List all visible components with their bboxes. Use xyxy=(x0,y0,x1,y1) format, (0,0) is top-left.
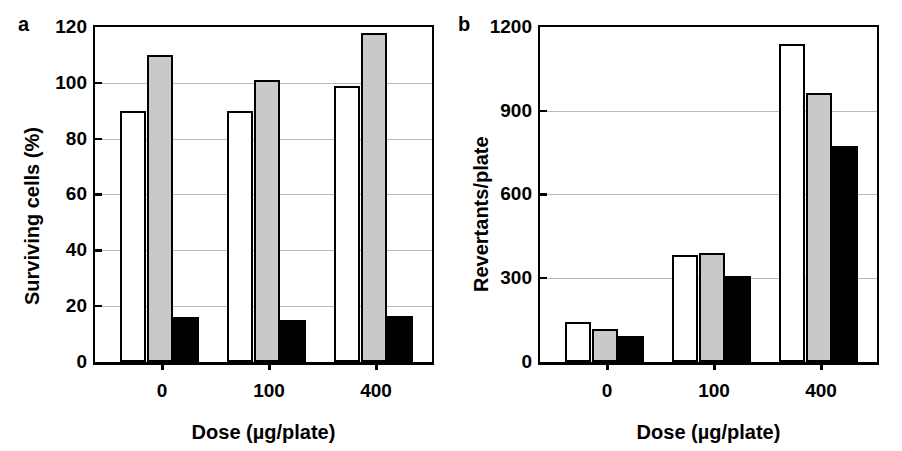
y-tick-label: 900 xyxy=(468,101,532,120)
y-tick-mark xyxy=(95,193,102,196)
x-tick-mark xyxy=(268,364,271,370)
y-tick-mark xyxy=(95,305,102,308)
y-tick-mark xyxy=(540,193,547,196)
x-tick-mark xyxy=(161,364,164,370)
bar-gray-dose-100 xyxy=(699,253,725,362)
x-tick-mark xyxy=(713,364,716,370)
panel-a: a Surviving cells (%) Dose (µg/plate) 02… xyxy=(0,0,451,451)
panel-a-plot-area xyxy=(95,27,432,362)
y-tick-label: 100 xyxy=(23,73,87,92)
y-tick-label: 300 xyxy=(468,268,532,287)
y-tick-label: 80 xyxy=(23,129,87,148)
bar-white-dose-0 xyxy=(565,322,591,362)
y-tick-label: 600 xyxy=(468,184,532,203)
y-tick-label: 0 xyxy=(23,352,87,371)
x-tick-label: 0 xyxy=(567,381,647,400)
panel-a-y-axis-title: Surviving cells (%) xyxy=(22,127,42,305)
panel-b-plot-area xyxy=(540,27,877,362)
bar-black-dose-0 xyxy=(618,336,644,362)
x-tick-label: 0 xyxy=(122,381,202,400)
bar-black-dose-0 xyxy=(173,317,199,362)
y-tick-mark xyxy=(95,138,102,141)
bar-black-dose-100 xyxy=(280,320,306,362)
y-tick-mark xyxy=(540,110,547,113)
bar-black-dose-400 xyxy=(832,146,858,362)
y-tick-mark xyxy=(95,82,102,85)
bar-white-dose-100 xyxy=(672,255,698,362)
x-tick-mark xyxy=(606,364,609,370)
bar-gray-dose-0 xyxy=(592,329,618,362)
bar-gray-dose-0 xyxy=(147,55,173,362)
y-tick-label: 60 xyxy=(23,184,87,203)
panel-a-plot-frame xyxy=(93,25,434,365)
bar-white-dose-400 xyxy=(779,44,805,362)
panel-b-plot-frame xyxy=(538,25,879,365)
x-tick-label: 400 xyxy=(336,381,416,400)
x-tick-label: 100 xyxy=(229,381,309,400)
bar-white-dose-400 xyxy=(334,86,360,362)
y-tick-label: 120 xyxy=(23,17,87,36)
bar-white-dose-0 xyxy=(120,111,146,362)
y-tick-label: 0 xyxy=(468,352,532,371)
x-tick-mark xyxy=(820,364,823,370)
bar-gray-dose-100 xyxy=(254,80,280,362)
y-tick-mark xyxy=(540,277,547,280)
y-tick-label: 1200 xyxy=(468,17,532,36)
bar-gray-dose-400 xyxy=(806,93,832,362)
panel-b-x-axis-title: Dose (µg/plate) xyxy=(538,422,879,442)
y-tick-label: 20 xyxy=(23,296,87,315)
x-tick-label: 400 xyxy=(781,381,861,400)
bar-black-dose-400 xyxy=(387,316,413,362)
panel-b: b Revertants/plate Dose (µg/plate) 03006… xyxy=(451,0,902,451)
y-tick-label: 40 xyxy=(23,240,87,259)
x-tick-label: 100 xyxy=(674,381,754,400)
bar-black-dose-100 xyxy=(725,276,751,362)
bar-gray-dose-400 xyxy=(361,33,387,362)
x-tick-mark xyxy=(375,364,378,370)
figure-root: a Surviving cells (%) Dose (µg/plate) 02… xyxy=(0,0,902,451)
bar-white-dose-100 xyxy=(227,111,253,362)
y-tick-mark xyxy=(95,249,102,252)
panel-a-x-axis-title: Dose (µg/plate) xyxy=(93,422,434,442)
